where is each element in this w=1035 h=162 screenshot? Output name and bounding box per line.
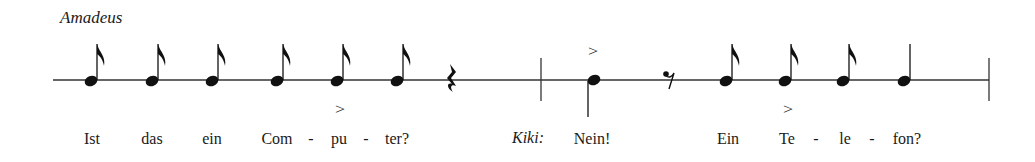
accent-mark: > [588, 44, 598, 58]
eighth-note [144, 44, 165, 88]
lyric-syllable: das [141, 130, 162, 148]
lyric-hyphen: - [363, 130, 368, 148]
eighth-note [204, 44, 225, 88]
accent-mark: > [335, 102, 345, 116]
eighth-note [718, 44, 739, 88]
lyric-hyphen: - [308, 130, 313, 148]
lyric-hyphen: - [813, 130, 818, 148]
eighth-note [269, 44, 290, 88]
lyric-hyphen: - [869, 130, 874, 148]
lyric-syllable: le [839, 130, 851, 148]
lyric-syllable: pu [331, 130, 347, 148]
lyric-syllable: Ist [84, 130, 100, 148]
lyric-syllable: Com [261, 130, 292, 148]
quarter-rest [447, 64, 456, 92]
lyric-syllable: Nein! [574, 130, 610, 148]
eighth-note [777, 44, 798, 88]
lyric-syllable: Ein [717, 130, 739, 148]
eighth-note [389, 44, 410, 88]
quarter-note [896, 44, 912, 88]
accent-mark: > [783, 102, 793, 116]
eighth-note [83, 44, 104, 88]
lyric-syllable: fon? [893, 130, 921, 148]
speaker-kiki: Kiki: [512, 129, 544, 147]
lyric-syllable: ter? [385, 130, 409, 148]
speaker-amadeus: Amadeus [60, 8, 122, 28]
eighth-note [835, 44, 856, 88]
lyric-syllable: ein [202, 130, 222, 148]
quarter-note-stem-down [586, 73, 602, 117]
lyric-syllable: Te [779, 130, 795, 148]
eighth-note [329, 44, 350, 88]
